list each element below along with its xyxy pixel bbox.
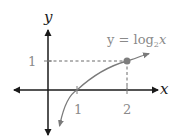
equation-variable: x: [159, 32, 167, 47]
equation-prefix: y = log: [106, 32, 154, 47]
y-tick-label-1: 1: [28, 54, 36, 69]
log-graph: y x 1 2 1 y = log2x: [0, 0, 176, 140]
point-2-1: [124, 58, 131, 65]
x-tick-label-1: 1: [74, 102, 82, 117]
y-axis-label: y: [43, 8, 53, 26]
curve-arrow-end: [144, 54, 149, 56]
equation-label: y = log2x: [106, 32, 167, 49]
x-axis-label: x: [160, 80, 169, 98]
curve-arrow-start: [60, 120, 62, 126]
x-tick-label-2: 2: [123, 102, 131, 117]
